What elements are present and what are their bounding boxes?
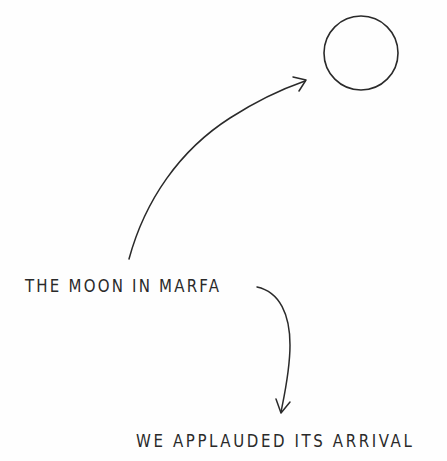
caption-we-applauded-its-arrival: WE APPLAUDED ITS ARRIVAL [136,431,414,451]
arrow-up-to-moon-icon [129,77,306,259]
arrow-down-to-caption-icon [257,287,290,413]
illustration-canvas: THE MOON IN MARFA WE APPLAUDED ITS ARRIV… [0,0,447,461]
caption-the-moon-in-marfa: THE MOON IN MARFA [25,276,221,296]
moon-circle-icon [324,16,398,90]
sketch-drawing [0,0,447,461]
